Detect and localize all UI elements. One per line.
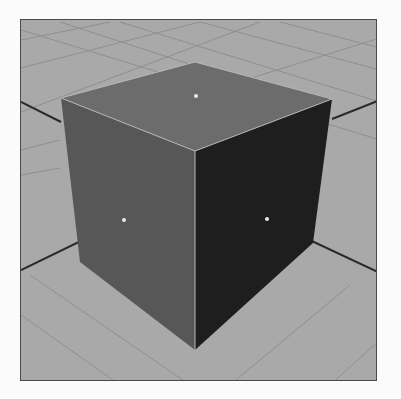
scene-canvas[interactable] — [20, 19, 377, 381]
top-face-center-dot[interactable] — [194, 94, 198, 98]
left-face-center-dot[interactable] — [122, 218, 126, 222]
right-face-center-dot[interactable] — [265, 217, 269, 221]
3d-viewport[interactable]: 3D viewport - cube on grid — [20, 19, 377, 381]
